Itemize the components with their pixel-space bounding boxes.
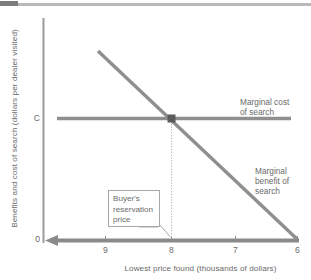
x-tick-label-8: 8 [165,245,179,255]
marginal-cost-label-line1: Marginal cost [240,97,289,107]
marginal-benefit-label: Marginal benefit of search [255,166,289,197]
x-axis-arrowhead-icon [45,235,58,246]
x-axis-title: Lowest price found (thousands of dollars… [90,264,311,273]
callout-line1: Buyer's [113,194,159,205]
marginal-cost-label-line2: of search [240,107,289,117]
y-label-zero: 0 [26,234,40,244]
intersection-marker [168,115,176,123]
y-axis-title: Benefits and cost of search (dollars per… [10,9,19,249]
marginal-benefit-label-line2: benefit of [255,176,289,186]
marginal-benefit-label-line1: Marginal [255,166,289,176]
callout-line3: price [113,215,159,226]
x-tick-label-7: 7 [229,245,243,255]
search-theory-chart-figure: Benefits and cost of search (dollars per… [0,0,311,280]
y-label-C: C [26,113,40,123]
callout-line2: reservation [113,205,159,216]
chart-plot-area [0,0,311,280]
marginal-cost-label: Marginal cost of search [240,97,289,117]
reservation-price-callout-box: Buyer's reservation price [108,190,160,227]
x-tick-label-6: 6 [291,245,305,255]
x-tick-label-9: 9 [99,245,113,255]
marginal-benefit-label-line3: search [255,186,289,196]
